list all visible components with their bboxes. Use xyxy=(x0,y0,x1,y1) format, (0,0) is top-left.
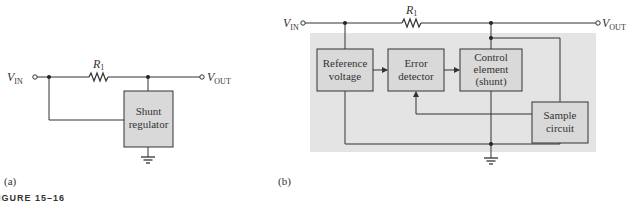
block-text: element xyxy=(474,63,509,75)
block-text: Sample xyxy=(544,109,577,121)
panel-a-label: (a) xyxy=(4,175,16,187)
vin-label-a: VIN xyxy=(7,70,23,86)
ground-icon xyxy=(141,147,155,163)
figure-caption: IGURE 15–16 xyxy=(0,193,65,201)
vin-terminal-b xyxy=(301,21,305,25)
panel-a: VIN R1 VOUT Shunt regulator xyxy=(7,57,231,163)
block-text: Reference xyxy=(323,57,368,69)
block-text: (shunt) xyxy=(475,75,507,88)
resistor-r1-a xyxy=(89,73,108,81)
block-text: detector xyxy=(398,70,434,82)
block-text: Control xyxy=(474,51,508,63)
vout-label-a: VOUT xyxy=(207,70,231,86)
vout-terminal-a xyxy=(200,75,204,79)
block-text: Error xyxy=(404,57,428,69)
panel-b: VIN R1 VOUT Reference voltage Error dete… xyxy=(283,3,626,164)
block-text: voltage xyxy=(329,70,361,82)
block-text: regulator xyxy=(129,118,169,130)
vout-label-b: VOUT xyxy=(602,16,626,32)
resistor-r1-b xyxy=(402,19,421,27)
wire xyxy=(49,77,124,120)
vin-terminal-a xyxy=(33,75,37,79)
figure-canvas: VIN R1 VOUT Shunt regulator xyxy=(0,0,630,201)
r1-label-b: R1 xyxy=(405,3,417,18)
block-text: circuit xyxy=(546,122,574,134)
r1-label-a: R1 xyxy=(92,57,104,72)
block-text: Shunt xyxy=(136,105,162,117)
vout-terminal-b xyxy=(596,21,600,25)
panel-b-label: (b) xyxy=(278,175,291,187)
vin-label-b: VIN xyxy=(283,16,299,32)
